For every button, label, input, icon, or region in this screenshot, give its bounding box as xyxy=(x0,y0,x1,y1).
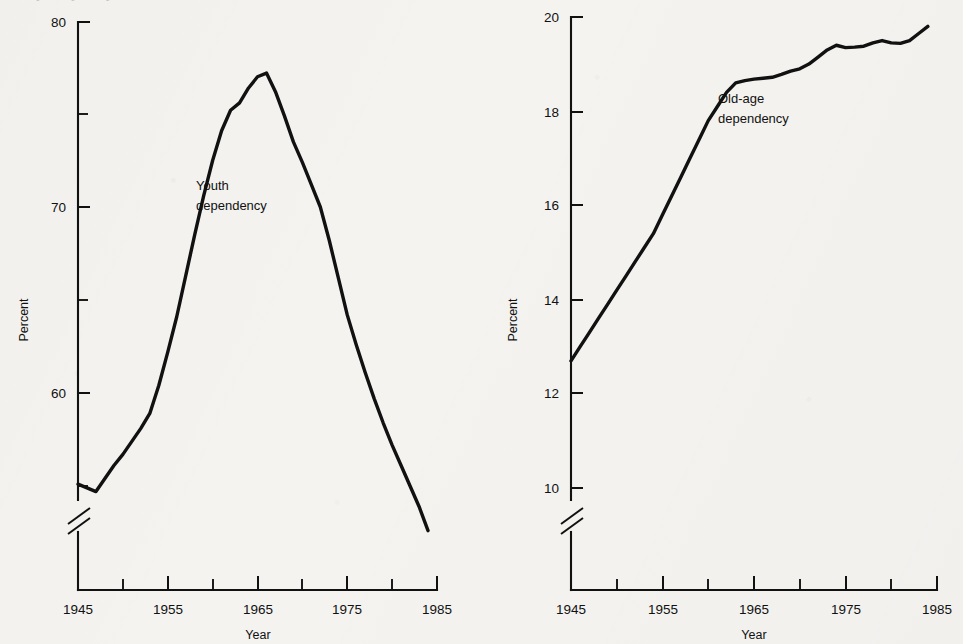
series-annotation-oldage-line1: Old-age xyxy=(718,91,764,106)
x-axis-title: Year xyxy=(245,628,270,642)
y-tick-label-16: 16 xyxy=(544,198,559,213)
chart-panel-oldage-dependency: 20 18 16 14 12 10 1945 1955 1965 1975 19… xyxy=(481,0,963,644)
x-tick-label-1965: 1965 xyxy=(243,602,273,617)
x-tick-label-1975: 1975 xyxy=(831,602,861,617)
series-annotation-youth-line1: Youth xyxy=(196,178,229,193)
y-tick-label-18: 18 xyxy=(544,105,559,120)
x-axis-ticks xyxy=(78,576,437,590)
x-tick-label-1985: 1985 xyxy=(422,602,452,617)
y-tick-label-20: 20 xyxy=(544,10,559,25)
data-series-oldage-dependency xyxy=(571,26,928,360)
y-axis-break-marks xyxy=(561,508,583,534)
y-axis-title: Percent xyxy=(17,298,31,342)
x-tick-label-1955: 1955 xyxy=(648,602,678,617)
y-tick-label-12: 12 xyxy=(544,386,559,401)
oldage-dependency-svg: 20 18 16 14 12 10 1945 1955 1965 1975 19… xyxy=(481,0,963,644)
series-annotation-youth-line2: dependency xyxy=(196,198,267,213)
x-tick-label-1945: 1945 xyxy=(556,602,586,617)
x-tick-label-1975: 1975 xyxy=(332,602,362,617)
y-tick-label-14: 14 xyxy=(544,293,560,308)
youth-dependency-svg: 80 70 60 1945 1955 1965 1975 1985 Percen… xyxy=(0,0,481,644)
y-axis-break-marks xyxy=(68,508,90,534)
chart-panel-youth-dependency: 80 70 60 1945 1955 1965 1975 1985 Percen… xyxy=(0,0,481,644)
x-tick-label-1965: 1965 xyxy=(739,602,769,617)
y-axis-title: Percent xyxy=(506,298,520,342)
data-series-youth-dependency xyxy=(78,73,428,531)
y-tick-label-70: 70 xyxy=(51,200,66,215)
x-axis-title: Year xyxy=(741,628,766,642)
x-tick-label-1955: 1955 xyxy=(153,602,183,617)
y-tick-label-60: 60 xyxy=(51,386,66,401)
series-annotation-oldage-line2: dependency xyxy=(718,111,789,126)
y-tick-label-10: 10 xyxy=(544,481,559,496)
y-axis-minor-ticks xyxy=(78,114,88,486)
x-tick-label-1985: 1985 xyxy=(922,602,952,617)
x-tick-label-1945: 1945 xyxy=(63,602,93,617)
y-axis-major-ticks xyxy=(571,17,583,488)
y-tick-label-80: 80 xyxy=(51,15,66,30)
x-axis-ticks xyxy=(571,576,937,590)
y-axis-major-ticks xyxy=(78,22,90,393)
